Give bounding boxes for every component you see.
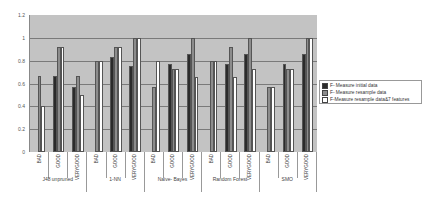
y-tick-label: 0.6 (9, 81, 25, 87)
x-group-label: Random Forest (201, 176, 258, 182)
bar-3 (175, 69, 179, 152)
bar-3 (80, 95, 84, 152)
bar-3 (214, 61, 218, 152)
bar-3 (137, 38, 141, 152)
x-group: Naive- Bayes (144, 152, 202, 192)
bar-3 (99, 61, 103, 152)
legend-label: F- Measure initial data (330, 83, 377, 88)
f-measure-bar-chart: 1.210.80.60.40.20 BADGOODVERYGOODBADGOOD… (0, 0, 439, 200)
bar-3 (41, 106, 45, 152)
legend-swatch-icon (322, 97, 328, 103)
x-group-label: SMO (259, 176, 316, 182)
legend-item: F-Measure resample data&7 features (322, 96, 419, 103)
x-group: Random Forest (201, 152, 259, 192)
gridline (30, 38, 317, 39)
x-group: SMO (259, 152, 317, 192)
bar-3 (195, 77, 199, 152)
bar-3 (61, 47, 65, 152)
legend-swatch-icon (322, 83, 328, 89)
x-group-label: Naive- Bayes (144, 176, 201, 182)
x-group-label: J48 unpruned (29, 176, 86, 182)
y-tick-label: 0 (9, 149, 25, 155)
y-tick-label: 0.2 (9, 126, 25, 132)
legend-swatch-icon (322, 90, 328, 96)
x-group: J48 unpruned (29, 152, 87, 192)
plot-area (29, 15, 317, 152)
bar-3 (252, 69, 256, 152)
x-group: 1-NN (86, 152, 144, 192)
bar-3 (156, 61, 160, 152)
bar-3 (309, 38, 313, 152)
gridline (30, 61, 317, 62)
legend-label: F- Measure resample data (330, 90, 386, 95)
legend: F- Measure initial dataF- Measure resamp… (319, 80, 422, 104)
y-tick-label: 1.2 (9, 12, 25, 18)
y-tick-label: 0.8 (9, 58, 25, 64)
bar-3 (233, 77, 237, 152)
legend-label: F-Measure resample data&7 features (330, 97, 409, 102)
legend-item: F- Measure initial data (322, 82, 419, 89)
bar-3 (290, 69, 294, 152)
bar-3 (271, 87, 275, 152)
x-group-label: 1-NN (86, 176, 143, 182)
bar-3 (118, 47, 122, 152)
legend-item: F- Measure resample data (322, 89, 419, 96)
y-tick-label: 1 (9, 35, 25, 41)
y-tick-label: 0.4 (9, 103, 25, 109)
